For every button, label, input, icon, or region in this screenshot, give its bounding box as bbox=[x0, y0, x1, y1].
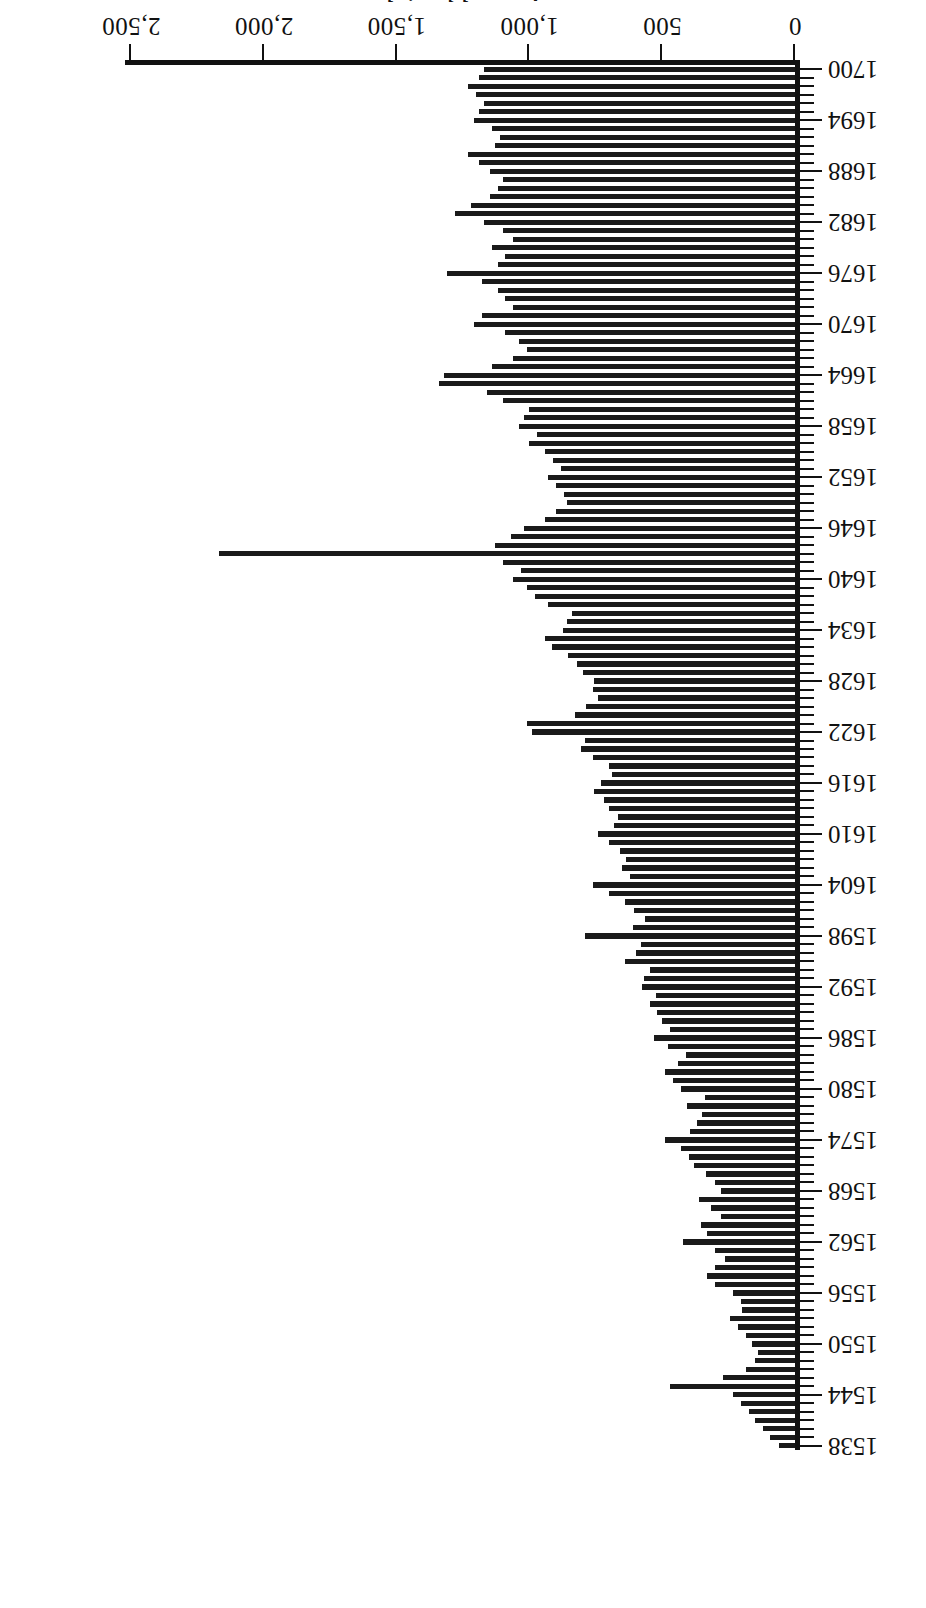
bar bbox=[503, 228, 795, 233]
category-tick-minor bbox=[800, 858, 814, 860]
category-tick-major bbox=[800, 1292, 822, 1294]
category-tick-minor bbox=[800, 519, 814, 521]
category-tick-major bbox=[800, 425, 822, 427]
category-tick-label: 1592 bbox=[828, 973, 912, 1001]
category-tick-minor bbox=[800, 587, 814, 589]
category-tick-minor bbox=[800, 977, 814, 979]
category-tick-minor bbox=[800, 128, 814, 130]
category-tick-label: 1664 bbox=[828, 361, 912, 389]
category-tick-minor bbox=[800, 238, 814, 240]
category-tick-minor bbox=[800, 1334, 814, 1336]
bar bbox=[681, 1146, 795, 1151]
bar bbox=[625, 959, 795, 964]
value-tick bbox=[660, 44, 662, 60]
category-tick-major bbox=[800, 119, 822, 121]
value-tick-label: 2,500 bbox=[102, 12, 161, 40]
category-tick-minor bbox=[800, 1224, 814, 1226]
bar bbox=[548, 602, 795, 607]
category-tick-minor bbox=[800, 1173, 814, 1175]
bar bbox=[513, 356, 795, 361]
category-tick-minor bbox=[800, 289, 814, 291]
bar bbox=[779, 1443, 795, 1448]
bar bbox=[583, 670, 795, 675]
category-tick-minor bbox=[800, 1419, 814, 1421]
bar bbox=[503, 398, 795, 403]
bar bbox=[770, 1435, 795, 1440]
category-tick-minor bbox=[800, 383, 814, 385]
bar bbox=[733, 1290, 795, 1295]
bar bbox=[594, 678, 795, 683]
bar bbox=[641, 942, 795, 947]
category-tick-minor bbox=[800, 340, 814, 342]
bar bbox=[548, 475, 795, 480]
bar bbox=[468, 152, 795, 157]
bar bbox=[474, 322, 795, 327]
category-tick-major bbox=[800, 1343, 822, 1345]
bar bbox=[721, 1188, 795, 1193]
category-tick-minor bbox=[800, 94, 814, 96]
bar bbox=[715, 1265, 795, 1270]
bar bbox=[537, 432, 795, 437]
category-tick-minor bbox=[800, 1028, 814, 1030]
bar bbox=[662, 1018, 795, 1023]
bar bbox=[498, 186, 795, 191]
bar bbox=[609, 806, 795, 811]
bar bbox=[665, 1069, 795, 1074]
bar bbox=[482, 313, 795, 318]
category-tick-minor bbox=[800, 85, 814, 87]
category-tick-label: 1628 bbox=[828, 667, 912, 695]
bar bbox=[568, 653, 795, 658]
category-tick-minor bbox=[800, 621, 814, 623]
bar bbox=[527, 347, 795, 352]
category-tick-minor bbox=[800, 1232, 814, 1234]
category-tick-minor bbox=[800, 493, 814, 495]
category-tick-minor bbox=[800, 391, 814, 393]
bar bbox=[763, 1426, 795, 1431]
value-axis-title: Annual burials bbox=[230, 0, 690, 8]
category-tick-major bbox=[800, 1139, 822, 1141]
bar bbox=[645, 916, 795, 921]
bar bbox=[511, 534, 795, 539]
bar bbox=[532, 729, 795, 734]
category-tick-major bbox=[800, 1394, 822, 1396]
bar bbox=[650, 967, 795, 972]
bar bbox=[519, 339, 795, 344]
category-tick-minor bbox=[800, 1130, 814, 1132]
category-tick-label: 1694 bbox=[828, 106, 912, 134]
bar bbox=[670, 1027, 795, 1032]
bar bbox=[622, 865, 795, 870]
category-tick-label: 1598 bbox=[828, 922, 912, 950]
bar bbox=[656, 993, 795, 998]
category-tick-minor bbox=[800, 315, 814, 317]
category-tick-major bbox=[800, 68, 822, 70]
category-tick-label: 1574 bbox=[828, 1126, 912, 1154]
bar bbox=[490, 194, 795, 199]
bar bbox=[689, 1154, 795, 1159]
category-tick-minor bbox=[800, 646, 814, 648]
bar bbox=[687, 1103, 795, 1108]
category-tick-minor bbox=[800, 689, 814, 691]
category-tick-minor bbox=[800, 1385, 814, 1387]
category-tick-label: 1646 bbox=[828, 514, 912, 542]
bar bbox=[447, 271, 795, 276]
category-tick-minor bbox=[800, 765, 814, 767]
category-tick-minor bbox=[800, 213, 814, 215]
bar bbox=[492, 126, 795, 131]
category-tick-minor bbox=[800, 1428, 814, 1430]
category-tick-minor bbox=[800, 740, 814, 742]
category-tick-major bbox=[800, 1190, 822, 1192]
bar bbox=[519, 424, 795, 429]
category-tick-minor bbox=[800, 510, 814, 512]
bar bbox=[707, 1273, 795, 1278]
category-tick-minor bbox=[800, 807, 814, 809]
category-tick-minor bbox=[800, 697, 814, 699]
category-tick-minor bbox=[800, 1377, 814, 1379]
bar bbox=[572, 611, 795, 616]
bar bbox=[723, 1375, 795, 1380]
category-tick-minor bbox=[800, 162, 814, 164]
category-tick-major bbox=[800, 221, 822, 223]
category-tick-minor bbox=[800, 561, 814, 563]
value-tick bbox=[527, 44, 529, 60]
bar bbox=[706, 1171, 795, 1176]
bar bbox=[556, 483, 795, 488]
